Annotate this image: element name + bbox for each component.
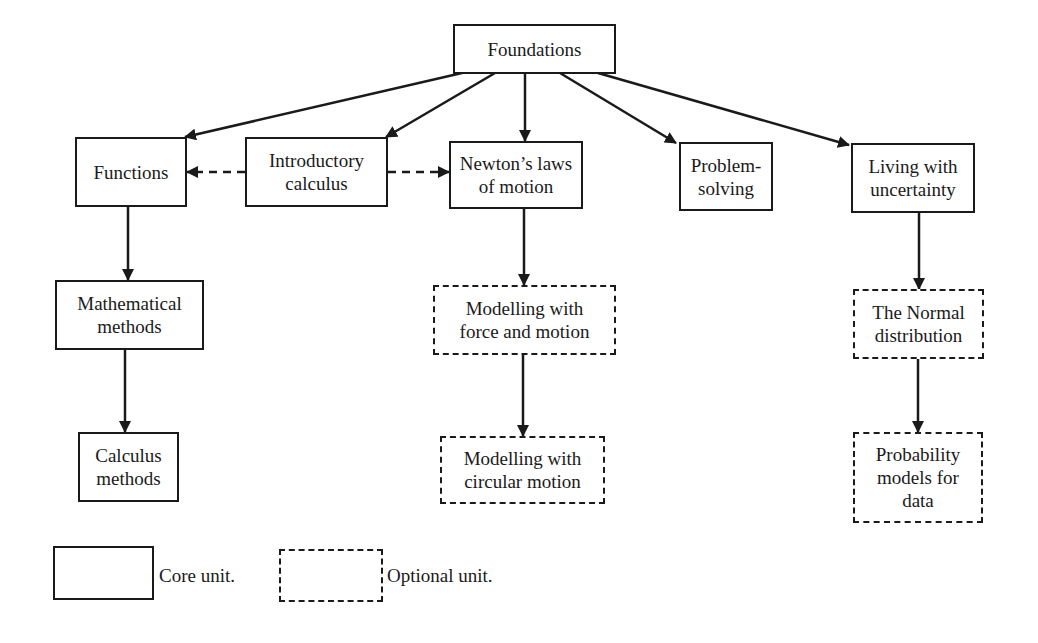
node-label: Calculus methods <box>95 444 162 490</box>
node-label: The Normal distribution <box>872 301 964 347</box>
legend-label-optional: Optional unit. <box>387 564 493 587</box>
node-foundations: Foundations <box>453 24 616 74</box>
node-intro-calculus: Introductory calculus <box>245 137 388 207</box>
node-label: Introductory calculus <box>269 149 364 195</box>
node-label: Modelling with force and motion <box>460 297 590 343</box>
node-living-uncertainty: Living with uncertainty <box>851 143 975 213</box>
node-label: Functions <box>94 161 169 184</box>
node-label: Probability models for data <box>876 443 960 512</box>
arrow-foundations-to-intro-calculus <box>386 73 495 137</box>
node-label: Living with uncertainty <box>868 155 957 201</box>
legend-swatch-core <box>53 546 154 600</box>
legend-label-core: Core unit. <box>159 564 235 587</box>
node-label: Problem- solving <box>691 154 762 200</box>
node-problem-solving: Problem- solving <box>679 142 773 211</box>
node-label: Modelling with circular motion <box>464 447 582 493</box>
arrow-foundations-to-functions <box>185 73 462 137</box>
legend-swatch-optional <box>279 549 383 602</box>
node-probability-models: Probability models for data <box>853 432 983 523</box>
arrow-foundations-to-living-uncertainty <box>598 73 849 145</box>
node-force-motion: Modelling with force and motion <box>433 285 616 355</box>
node-functions: Functions <box>75 137 187 207</box>
node-label: Foundations <box>488 38 582 61</box>
node-math-methods: Mathematical methods <box>55 280 204 350</box>
node-calculus-methods: Calculus methods <box>78 432 179 502</box>
node-label: Newton’s laws of motion <box>460 152 572 198</box>
arrow-foundations-to-problem-solving <box>560 73 676 143</box>
node-normal-distribution: The Normal distribution <box>853 289 984 359</box>
node-circular-motion: Modelling with circular motion <box>440 436 605 504</box>
node-label: Mathematical methods <box>77 292 181 338</box>
node-newtons-laws: Newton’s laws of motion <box>449 141 583 209</box>
diagram-canvas: FoundationsFunctionsIntroductory calculu… <box>0 0 1038 643</box>
